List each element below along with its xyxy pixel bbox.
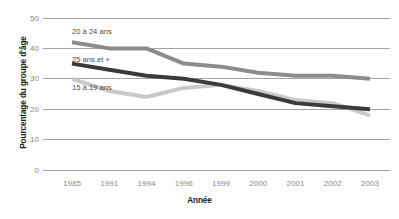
plot-area: 01020304050 1985199119941996199920002001… (0, 0, 399, 219)
y-axis-ticks-group: 01020304050 (30, 14, 48, 175)
x-tick-label: 1991 (100, 179, 118, 188)
series-line-0 (72, 42, 370, 78)
x-tick-label: 2000 (249, 179, 267, 188)
x-tick-label: 1994 (138, 179, 156, 188)
y-tick-label: 40 (30, 44, 39, 53)
x-tick-label: 1999 (212, 179, 230, 188)
x-tick-label: 1996 (175, 179, 193, 188)
x-axis-ticks-group: 198519911994199619992000200120022003 (63, 179, 379, 188)
x-tick-label: 2002 (324, 179, 342, 188)
x-tick-label: 2003 (361, 179, 379, 188)
series-labels-group: 20 à 24 ans25 ans et +15 à 19 ans (72, 27, 112, 92)
series-label-1: 25 ans et + (72, 55, 110, 64)
gridlines-group (48, 18, 390, 170)
y-tick-label: 10 (30, 135, 39, 144)
y-tick-label: 0 (35, 166, 40, 175)
series-label-0: 20 à 24 ans (72, 27, 112, 36)
series-label-2: 15 à 19 ans (72, 83, 112, 92)
y-tick-label: 20 (30, 105, 39, 114)
x-tick-label: 1985 (63, 179, 81, 188)
x-tick-label: 2001 (287, 179, 305, 188)
line-chart: Pourcentage du groupe d'âge 01020304050 … (0, 0, 399, 219)
y-tick-label: 50 (30, 14, 39, 23)
y-tick-label: 30 (30, 74, 39, 83)
x-axis-title: Année (0, 196, 399, 205)
